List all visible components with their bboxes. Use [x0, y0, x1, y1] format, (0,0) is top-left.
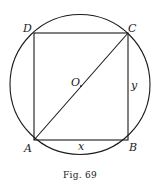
vertex-label-d: D [22, 22, 32, 35]
center-point-o [80, 85, 82, 87]
vertex-label-c: C [128, 22, 137, 35]
center-label-o: O [71, 76, 80, 89]
inscribed-rectangle-figure: D C A B O y x Fig. 69 [0, 0, 156, 182]
side-label-y: y [130, 79, 138, 92]
vertex-label-a: A [23, 142, 32, 155]
vertex-label-b: B [128, 141, 137, 154]
figure-caption: Fig. 69 [63, 170, 97, 180]
side-label-x: x [78, 140, 85, 153]
